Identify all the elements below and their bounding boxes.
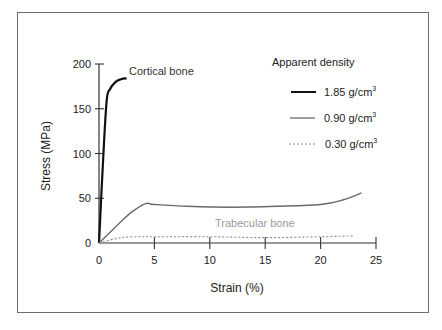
x-tick-label: 20 bbox=[314, 254, 326, 266]
x-tick-label: 15 bbox=[259, 254, 271, 266]
y-tick-label: 0 bbox=[85, 237, 91, 249]
x-axis-label: Strain (%) bbox=[210, 281, 263, 295]
x-tick-label: 10 bbox=[204, 254, 216, 266]
x-tick-label: 25 bbox=[370, 254, 382, 266]
y-tick-label: 200 bbox=[73, 58, 91, 70]
legend: Apparent density 1.85 g/cm3 0.90 g/cm3 0… bbox=[272, 56, 377, 150]
annotation-cortical-bone: Cortical bone bbox=[129, 65, 194, 77]
y-axis-label: Stress (MPa) bbox=[39, 121, 53, 191]
legend-label-0.90: 0.90 g/cm3 bbox=[324, 111, 376, 124]
legend-title: Apparent density bbox=[272, 56, 355, 68]
y-tick-label: 150 bbox=[73, 103, 91, 115]
x-tick-label: 0 bbox=[96, 254, 102, 266]
legend-label-0.30: 0.30 g/cm3 bbox=[325, 137, 377, 150]
y-tick-label: 100 bbox=[73, 148, 91, 160]
legend-label-1.85: 1.85 g/cm3 bbox=[324, 85, 376, 98]
annotation-trabecular-bone: Trabecular bone bbox=[215, 217, 295, 229]
series-cortical-1.85 bbox=[99, 78, 127, 243]
stress-strain-chart: 050100150200 0510152025 Strain (%) Stres… bbox=[0, 0, 442, 330]
x-ticks: 0510152025 bbox=[96, 237, 382, 266]
series-trabecular-0.30 bbox=[99, 236, 354, 243]
x-tick-label: 5 bbox=[151, 254, 157, 266]
y-tick-label: 50 bbox=[79, 192, 91, 204]
